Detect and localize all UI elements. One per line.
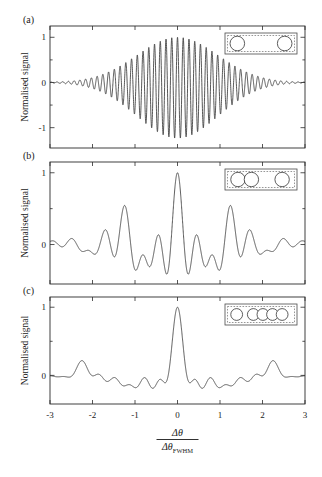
interference-figure: -101Normalised signal(a)01Normalised sig… xyxy=(0,0,322,477)
y-tick-label: 0 xyxy=(42,371,47,381)
panel-label: (b) xyxy=(23,150,35,162)
inset-five-aperture-array xyxy=(225,304,297,325)
x-tick-label: 3 xyxy=(303,410,308,420)
x-tick-label: -2 xyxy=(89,410,97,420)
aperture-circle xyxy=(277,36,292,51)
x-axis-denominator-subscript: FWHM xyxy=(173,447,193,454)
aperture-circle xyxy=(231,172,245,186)
y-tick-label: 1 xyxy=(42,302,47,312)
x-tick-label: 2 xyxy=(260,410,265,420)
x-tick-label: 1 xyxy=(218,410,223,420)
inset-three-aperture-array xyxy=(225,169,297,190)
y-axis-label: Normalised signal xyxy=(20,52,30,122)
aperture-circle xyxy=(231,309,243,321)
x-tick-label: -3 xyxy=(46,410,54,420)
aperture-circle xyxy=(244,172,258,186)
y-axis-label: Normalised signal xyxy=(20,188,30,258)
inset-two-aperture-array xyxy=(225,33,297,54)
y-axis-label: Normalised signal xyxy=(20,315,30,385)
y-tick-label: 1 xyxy=(42,168,47,178)
aperture-circle xyxy=(230,36,245,51)
y-tick-label: 0 xyxy=(42,240,47,250)
x-tick-label: 0 xyxy=(175,410,180,420)
panel-label: (c) xyxy=(23,285,34,297)
y-tick-label: 0 xyxy=(42,78,47,88)
panel-label: (a) xyxy=(23,14,34,26)
aperture-circle xyxy=(276,309,288,321)
y-tick-label: -1 xyxy=(39,123,47,133)
x-axis-numerator: Δθ xyxy=(171,427,183,438)
y-tick-label: 1 xyxy=(42,32,47,42)
aperture-circle xyxy=(275,172,289,186)
x-tick-label: -1 xyxy=(131,410,139,420)
